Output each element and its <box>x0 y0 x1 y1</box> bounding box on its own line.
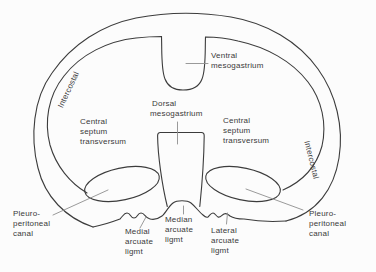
label-lateral-arcuate-ligament: Lateral arcuate ligmt <box>211 226 239 256</box>
label-medial-arcuate-ligament: Medial arcuate ligmt <box>125 227 153 257</box>
label-pleuro-peritoneal-canal-right: Pleuro- peritoneal canal <box>309 209 346 239</box>
label-line: canal <box>309 229 346 239</box>
label-line: Lateral <box>211 226 239 236</box>
label-line: Pleuro- <box>13 209 50 219</box>
label-line: ligmt <box>211 246 239 256</box>
label-line: ligmt <box>165 235 193 245</box>
label-line: mesogastrium <box>150 109 203 119</box>
label-central-septum-transversum-left: Central septum transversum <box>80 117 126 147</box>
label-line: Central <box>80 117 126 127</box>
diagram-canvas: Intercostal Intercostal Ventral mesogast… <box>0 0 376 272</box>
label-median-arcuate-ligament: Median arcuate ligmt <box>165 215 193 245</box>
label-line: Central <box>223 116 269 126</box>
label-line: Medial <box>125 227 153 237</box>
label-line: arcuate <box>125 237 153 247</box>
pleuro-peritoneal-right-leader-line <box>246 189 303 210</box>
label-line: transversum <box>223 136 269 146</box>
label-pleuro-peritoneal-canal-left: Pleuro- peritoneal canal <box>13 209 50 239</box>
label-line: arcuate <box>211 236 239 246</box>
label-line: Ventral <box>211 51 264 61</box>
label-dorsal-mesogastrium: Dorsal mesogastrium <box>150 99 203 119</box>
lateral-arcuate-leader-line <box>227 213 228 224</box>
label-central-septum-transversum-right: Central septum transversum <box>223 116 269 146</box>
label-line: peritoneal <box>309 219 346 229</box>
label-line: transversum <box>80 137 126 147</box>
pleuroperitoneal-canal-right-oval <box>203 160 284 207</box>
label-line: Pleuro- <box>309 209 346 219</box>
pleuro-peritoneal-left-leader-line <box>53 190 108 215</box>
label-line: canal <box>13 229 50 239</box>
label-line: ligmt <box>125 247 153 257</box>
label-line: Median <box>165 215 193 225</box>
label-ventral-mesogastrium: Ventral mesogastrium <box>211 51 264 71</box>
label-line: septum <box>223 126 269 136</box>
pleuroperitoneal-canal-left-oval <box>82 160 163 207</box>
label-line: septum <box>80 127 126 137</box>
label-line: mesogastrium <box>211 61 264 71</box>
dorsal-mesogastrium-column <box>158 133 205 207</box>
label-line: Dorsal <box>150 99 203 109</box>
label-line: peritoneal <box>13 219 50 229</box>
label-line: arcuate <box>165 225 193 235</box>
